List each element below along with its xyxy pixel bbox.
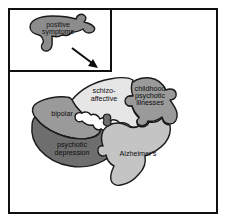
schizo-label-line2: affective (91, 94, 118, 103)
arrow-down-right-icon (72, 48, 98, 68)
alzheimers-label: Alzheimer's (120, 149, 157, 158)
childhood-label-line3: illnesses (136, 98, 164, 107)
figure-root: positive symptoms childhood psychotic il… (0, 0, 232, 224)
inset-label-line2: symptoms (42, 28, 74, 36)
psychotic-depression-label-line2: depression (54, 148, 89, 157)
main-jigsaw-group: childhood psychotic illnesses schizo- af… (32, 78, 177, 186)
connector-nub-shape (103, 114, 111, 126)
bipolar-label: bipolar (51, 109, 73, 118)
piece-alzheimers[interactable]: Alzheimer's (98, 118, 170, 185)
diagram-canvas: positive symptoms childhood psychotic il… (0, 0, 232, 224)
connector-nub (103, 114, 111, 126)
inset-positive-symptoms-piece[interactable]: positive symptoms (30, 14, 95, 51)
